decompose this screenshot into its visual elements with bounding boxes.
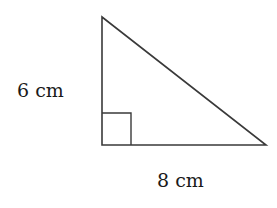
right-triangle xyxy=(102,17,266,145)
base-label: 8 cm xyxy=(157,169,204,191)
triangle-diagram: 6 cm 8 cm xyxy=(0,0,277,208)
right-angle-marker xyxy=(102,113,131,145)
height-label: 6 cm xyxy=(17,79,64,101)
